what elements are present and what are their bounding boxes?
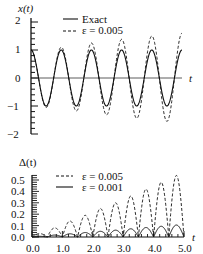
bottom-panel: Δ(t) 0.5 0.4 0.3 0.2 0.1 0.0 0.0 1.0 2.0…	[11, 156, 196, 254]
bottom-xtick-3: 3.0	[117, 242, 131, 254]
top-ytick-neg1: −1	[7, 100, 19, 112]
bottom-legend: ε = 0.005 ε = 0.001	[52, 170, 132, 195]
bottom-ytick-02: 0.2	[11, 208, 25, 220]
top-ytick-neg2: −2	[7, 128, 19, 140]
bottom-ytick-00: 0.0	[11, 231, 25, 243]
bottom-y-tick-labels: 0.5 0.4 0.3 0.2 0.1 0.0	[11, 174, 25, 243]
legend-eps-label: ε = 0.005	[82, 24, 124, 36]
top-panel: x(t) 2 1 0 −1 −2 t Exact ε = 0.005	[7, 2, 193, 140]
top-ytick-2: 2	[15, 14, 21, 26]
bottom-xtick-4: 4.0	[148, 242, 162, 254]
top-y-ticks	[31, 22, 38, 134]
bottom-ytick-04: 0.4	[11, 185, 25, 197]
bottom-xtick-2: 2.0	[87, 242, 101, 254]
bottom-xtick-0: 0.0	[26, 242, 40, 254]
top-ytick-0: 0	[15, 72, 21, 84]
top-legend: Exact ε = 0.005	[60, 13, 136, 38]
bottom-y-axis-label: Δ(t)	[19, 156, 37, 169]
top-x-axis-label: t	[189, 72, 193, 84]
series-eps-0005	[31, 33, 182, 121]
bottom-x-axis-label: t	[192, 231, 196, 243]
legend-eps1-label: ε = 0.001	[82, 181, 123, 193]
bottom-xtick-5: 5.0	[178, 242, 192, 254]
figure: x(t) 2 1 0 −1 −2 t Exact ε = 0.005 Δ(t) …	[0, 0, 203, 254]
top-ytick-1: 1	[15, 43, 21, 55]
bottom-xtick-1: 1.0	[56, 242, 70, 254]
bottom-x-tick-labels: 0.0 1.0 2.0 3.0 4.0 5.0	[26, 242, 192, 254]
